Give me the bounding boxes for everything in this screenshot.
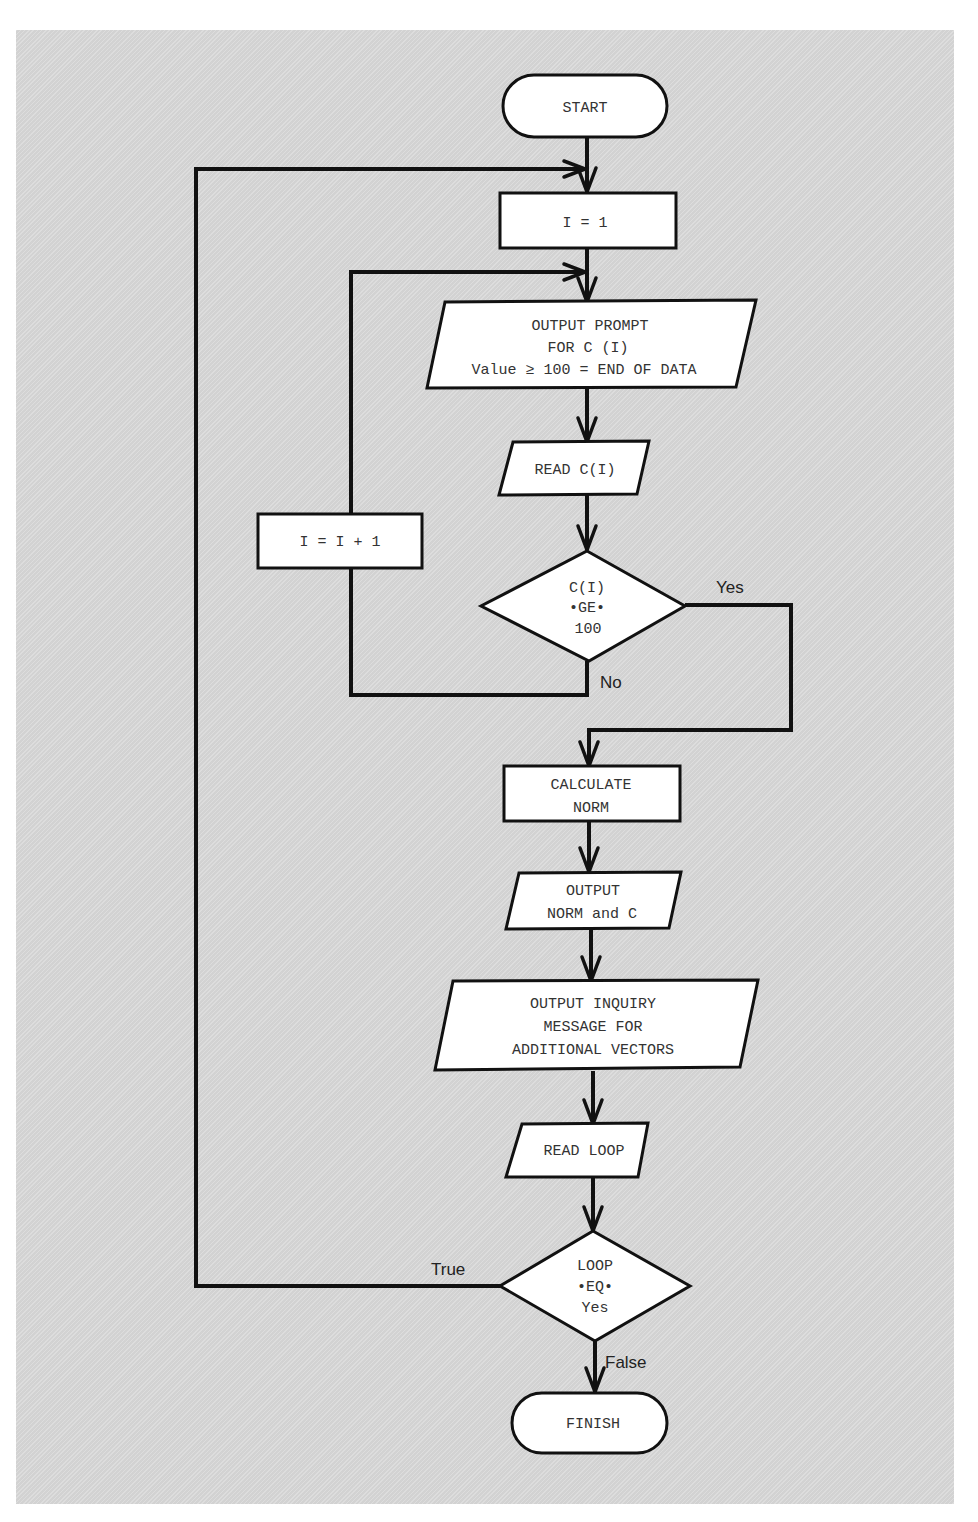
node-start: START (503, 75, 667, 137)
node-label: C(I) (569, 580, 605, 597)
node-finish: FINISH (512, 1393, 667, 1453)
node-label: OUTPUT (566, 883, 620, 900)
edge-label-false: False (605, 1353, 647, 1372)
node-label: OUTPUT PROMPT (531, 318, 648, 335)
node-calculate-norm: CALCULATE NORM (504, 766, 680, 821)
node-label: •EQ• (577, 1279, 613, 1296)
node-label: READ LOOP (543, 1143, 624, 1160)
flowchart: START I = 1 OUTPUT PROMPT FOR C (I) Valu… (0, 0, 978, 1522)
edge-label-no: No (600, 673, 622, 692)
node-label: Yes (581, 1300, 608, 1317)
node-label: I = I + 1 (299, 534, 380, 551)
node-output-norm: OUTPUT NORM and C (506, 872, 681, 929)
node-label: READ C(I) (534, 462, 615, 479)
edge-label-yes: Yes (716, 578, 744, 597)
node-label: •GE• (569, 600, 605, 617)
edge-label-true: True (431, 1260, 465, 1279)
node-label: MESSAGE FOR (543, 1019, 642, 1036)
node-output-prompt: OUTPUT PROMPT FOR C (I) Value ≥ 100 = EN… (427, 300, 756, 388)
node-decision-loop-eq-yes: LOOP •EQ• Yes (500, 1231, 690, 1341)
node-init-i: I = 1 (500, 193, 676, 248)
node-increment-i: I = I + 1 (258, 514, 422, 568)
node-read-c: READ C(I) (499, 441, 649, 495)
node-label: I = 1 (562, 215, 607, 232)
node-label: Value ≥ 100 = END OF DATA (471, 362, 696, 379)
node-label: NORM and C (547, 906, 637, 923)
node-label: CALCULATE (550, 777, 631, 794)
node-label: FOR C (I) (547, 340, 628, 357)
node-label: FINISH (566, 1416, 620, 1433)
node-label: LOOP (577, 1258, 613, 1275)
node-label: 100 (574, 621, 601, 638)
node-read-loop: READ LOOP (506, 1123, 648, 1177)
node-decision-c-ge-100: C(I) •GE• 100 (481, 551, 685, 661)
node-label: ADDITIONAL VECTORS (512, 1042, 674, 1059)
node-label: START (562, 100, 607, 117)
node-output-inquiry: OUTPUT INQUIRY MESSAGE FOR ADDITIONAL VE… (435, 980, 758, 1070)
node-label: NORM (573, 800, 609, 817)
node-label: OUTPUT INQUIRY (530, 996, 656, 1013)
